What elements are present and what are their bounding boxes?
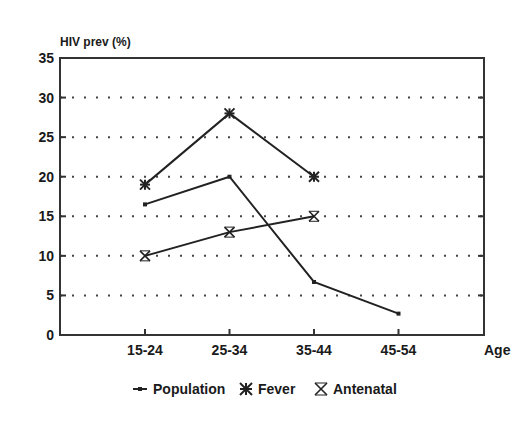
gridlines [60, 98, 484, 296]
y-tick-label: 25 [38, 129, 54, 145]
y-tick-label: 30 [38, 90, 54, 106]
y-tick-label: 15 [38, 208, 54, 224]
y-axis-ticks: 05101520253035 [38, 50, 484, 343]
x-tick-label: 15-24 [127, 342, 163, 358]
y-tick-label: 0 [46, 327, 54, 343]
x-tick-label: 45-54 [381, 342, 417, 358]
y-tick-label: 5 [46, 287, 54, 303]
line-chart: 05101520253035 15-2425-3435-4445-54 HIV … [0, 0, 521, 424]
x-tick-label: 25-34 [212, 342, 248, 358]
legend-item-antenatal: Antenatal [315, 381, 397, 397]
legend: PopulationFeverAntenatal [133, 381, 397, 397]
data-series [140, 108, 401, 315]
x-tick-label: 35-44 [296, 342, 332, 358]
legend-label: Fever [258, 381, 296, 397]
y-tick-label: 10 [38, 248, 54, 264]
y-tick-label: 35 [38, 50, 54, 66]
legend-item-population: Population [133, 381, 225, 397]
y-axis-label: HIV prev (%) [60, 35, 131, 49]
x-axis-ticks: 15-2425-3435-4445-54 [127, 329, 417, 358]
legend-item-fever: Fever [240, 381, 296, 397]
x-axis-label: Age [484, 342, 511, 358]
plot-area [60, 58, 484, 335]
legend-label: Antenatal [333, 381, 397, 397]
y-tick-label: 20 [38, 169, 54, 185]
legend-label: Population [153, 381, 225, 397]
